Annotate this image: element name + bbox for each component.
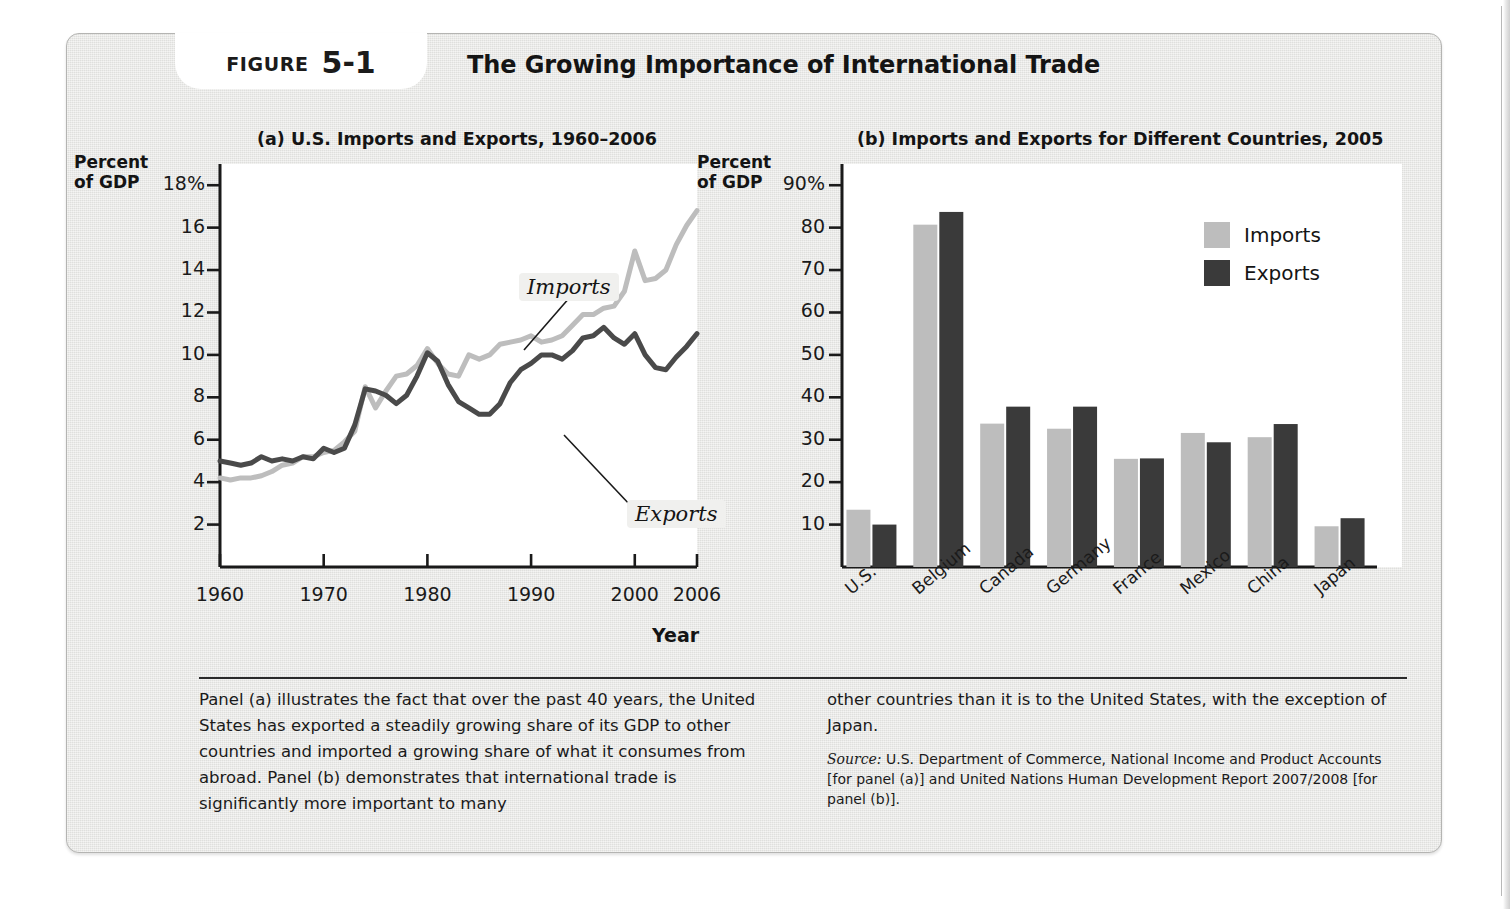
- figure-label-word: FIGURE: [226, 53, 308, 75]
- panel-a-y-tick-label: 6: [127, 427, 205, 449]
- panel-b-y-tick-label: 40: [739, 384, 825, 406]
- panel-b-bar-exports: [1274, 424, 1298, 567]
- panel-b-bar-exports: [872, 525, 896, 567]
- panel-a-y-tick-label: 16: [127, 215, 205, 237]
- caption-source-text: U.S. Department of Commerce, National In…: [827, 751, 1381, 807]
- legend-item-exports: Exports: [1204, 254, 1321, 292]
- panel-a-x-tick-label: 2006: [657, 583, 737, 605]
- legend-item-imports: Imports: [1204, 216, 1321, 254]
- panel-b-y-tick-label: 90%: [739, 172, 825, 194]
- panel-a-x-tick-label: 1960: [180, 583, 260, 605]
- page-edge-shadow: [1503, 0, 1510, 909]
- figure-number-tab: FIGURE5-1: [175, 33, 427, 89]
- panel-b-heading: (b) Imports and Exports for Different Co…: [857, 129, 1383, 149]
- panel-b-y-tick-label: 30: [739, 427, 825, 449]
- panel-a-exports-leader-line: [564, 435, 631, 506]
- panel-a-y-tick-label: 4: [127, 469, 205, 491]
- panel-a-y-tick-label: 14: [127, 257, 205, 279]
- page-edge-rule: [1501, 6, 1502, 896]
- panel-a-x-axis-title: Year: [652, 624, 699, 646]
- panel-a-y-tick-label: 18%: [127, 172, 205, 194]
- panel-a-y-tick-label: 2: [127, 512, 205, 534]
- panel-b-bar-imports: [1114, 459, 1138, 567]
- figure-title: The Growing Importance of International …: [467, 51, 1100, 79]
- page-canvas: FIGURE5-1 The Growing Importance of Inte…: [0, 0, 1510, 909]
- panel-a-exports-line: [220, 327, 697, 465]
- legend-swatch-imports: [1204, 222, 1230, 248]
- panel-a-heading: (a) U.S. Imports and Exports, 1960–2006: [257, 129, 657, 149]
- panel-a-x-tick-label: 1990: [491, 583, 571, 605]
- panel-b-y-tick-label: 80: [739, 215, 825, 237]
- panel-b-bar-imports: [1047, 429, 1071, 567]
- panel-b-bar-imports: [980, 424, 1004, 567]
- caption-right-column: other countries than it is to the United…: [827, 687, 1407, 809]
- legend-swatch-exports: [1204, 260, 1230, 286]
- caption-left-column: Panel (a) illustrates the fact that over…: [199, 687, 774, 817]
- figure-number-tab-inner: FIGURE5-1: [175, 43, 427, 78]
- figure-header: FIGURE5-1 The Growing Importance of Inte…: [67, 34, 1441, 106]
- panel-b-legend: Imports Exports: [1204, 216, 1321, 292]
- panel-b-bar-exports: [939, 212, 963, 567]
- panel-a-y-tick-label: 10: [127, 342, 205, 364]
- figure-box: FIGURE5-1 The Growing Importance of Inte…: [66, 33, 1442, 853]
- legend-label-exports: Exports: [1244, 261, 1320, 285]
- panel-a-x-tick-label: 1980: [387, 583, 467, 605]
- panel-b-bar-imports: [913, 225, 937, 567]
- caption-source: Source: U.S. Department of Commerce, Nat…: [827, 749, 1407, 809]
- panel-b-bar-imports: [846, 510, 870, 567]
- panel-a-y-ticks: [207, 185, 220, 524]
- legend-label-imports: Imports: [1244, 223, 1321, 247]
- panel-b-y-tick-label: 60: [739, 299, 825, 321]
- panel-a-imports-callout: Imports: [519, 273, 619, 301]
- panel-b-y-tick-label: 20: [739, 469, 825, 491]
- caption-divider-rule: [199, 677, 1407, 679]
- panel-a-exports-callout: Exports: [627, 500, 726, 528]
- panel-a-x-tick-label: 1970: [284, 583, 364, 605]
- panel-b-bar-imports: [1248, 437, 1272, 567]
- panel-b-y-tick-label: 10: [739, 512, 825, 534]
- figure-number: 5-1: [322, 45, 376, 80]
- panel-a-x-ticks: [220, 554, 697, 567]
- caption-right-text: other countries than it is to the United…: [827, 687, 1407, 739]
- panel-a-y-tick-label: 12: [127, 299, 205, 321]
- panel-b-y-tick-label: 50: [739, 342, 825, 364]
- panel-b-y-tick-label: 70: [739, 257, 825, 279]
- panel-b-bar-imports: [1181, 433, 1205, 567]
- panel-b-y-axis-title-line1: Percent: [697, 152, 771, 172]
- panel-b-y-ticks: [829, 185, 842, 524]
- caption-source-word: Source:: [827, 751, 882, 767]
- panel-a-y-tick-label: 8: [127, 384, 205, 406]
